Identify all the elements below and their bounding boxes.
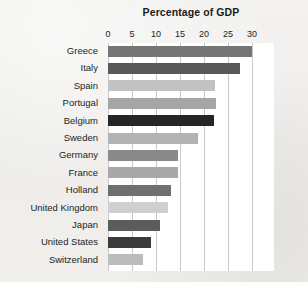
x-tick-30: 30 [247, 29, 257, 39]
category-label-spain: Spain [0, 80, 103, 91]
category-label-italy: Italy [0, 62, 103, 73]
bar-japan [108, 220, 160, 231]
plot-area [108, 43, 274, 271]
bar-spain [108, 80, 215, 91]
bar-greece [108, 46, 252, 57]
category-label-switzerland: Switzerland [0, 254, 103, 265]
x-tick-15: 15 [175, 29, 185, 39]
bar-sweden [108, 133, 198, 144]
bars-group [108, 43, 274, 271]
bar-italy [108, 63, 240, 74]
category-label-france: France [0, 167, 103, 178]
x-tick-20: 20 [199, 29, 209, 39]
x-tick-5: 5 [129, 29, 134, 39]
category-label-portugal: Portugal [0, 97, 103, 108]
category-label-united-kingdom: United Kingdom [0, 202, 103, 213]
category-label-japan: Japan [0, 219, 103, 230]
category-label-belgium: Belgium [0, 115, 103, 126]
bar-united-kingdom [108, 202, 168, 213]
category-label-united-states: United States [0, 236, 103, 247]
bar-france [108, 167, 178, 178]
chart-title: Percentage of GDP [108, 6, 274, 18]
x-axis-tick-labels: 051015202530 [0, 29, 308, 41]
bar-switzerland [108, 254, 143, 265]
category-label-sweden: Sweden [0, 132, 103, 143]
x-tick-25: 25 [223, 29, 233, 39]
x-tick-0: 0 [105, 29, 110, 39]
bar-chart: Percentage of GDP 051015202530 GreeceIta… [0, 0, 308, 282]
category-label-holland: Holland [0, 184, 103, 195]
category-label-germany: Germany [0, 149, 103, 160]
category-labels: GreeceItalySpainPortugalBelgiumSwedenGer… [0, 43, 103, 271]
bar-united-states [108, 237, 151, 248]
bar-germany [108, 150, 178, 161]
bar-belgium [108, 115, 214, 126]
bar-holland [108, 185, 171, 196]
bar-portugal [108, 98, 216, 109]
category-label-greece: Greece [0, 45, 103, 56]
x-tick-10: 10 [151, 29, 161, 39]
